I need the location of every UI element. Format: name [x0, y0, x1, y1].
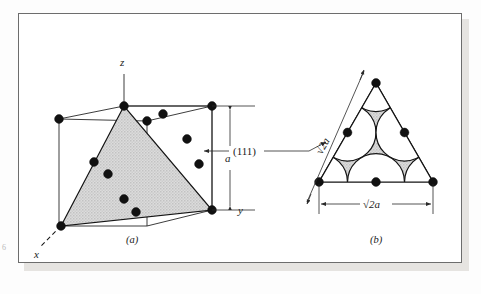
atom-face-center-1	[159, 110, 168, 119]
atom-face-center-2	[183, 135, 192, 144]
atom-circle-group	[291, 55, 462, 211]
caption-a: (a)	[126, 234, 139, 246]
dim-label-cube-edge: a	[225, 152, 231, 164]
dim-side-arrow-top	[360, 70, 364, 80]
atom-face-center-5	[132, 208, 141, 217]
cube-left-vertical	[59, 119, 61, 226]
plane-111-annotation: (111)	[204, 142, 326, 158]
figure-page: 6	[0, 0, 481, 294]
atom-corner-top	[120, 102, 129, 111]
dim-side-arrow-bottom	[307, 194, 311, 204]
dim-side-label-group: √2a	[313, 135, 332, 156]
figure-svg: z y x a (111)	[19, 14, 463, 264]
atom-b-mid-left	[343, 128, 352, 137]
atom-face-center-3	[195, 160, 204, 169]
atom-corner-back-left	[55, 115, 64, 124]
dim-label-triangle-side: √2a	[313, 135, 332, 156]
page-number: 6	[2, 243, 6, 252]
caption-b: (b)	[370, 234, 383, 246]
atom-face-center-4	[90, 158, 99, 167]
atom-corner-inner-bottom	[120, 195, 129, 204]
panel-a-fcc-cube: z y x a	[33, 56, 255, 260]
annotation-label-111: (111)	[233, 145, 256, 158]
panel-b-111-section: √2a √2a	[291, 55, 462, 215]
atom-corner-origin-x	[57, 222, 66, 231]
atom-b-mid-bottom	[372, 178, 381, 187]
atom-b-apex	[372, 79, 381, 88]
figure-frame: z y x a (111)	[18, 13, 462, 263]
atom-b-mid-right	[400, 128, 409, 137]
dim-label-triangle-base: √2a	[363, 198, 381, 210]
axis-label-z: z	[119, 56, 125, 68]
axis-label-x: x	[33, 248, 39, 260]
atom-face-center-6	[104, 170, 113, 179]
atom-corner-inner-top	[143, 117, 152, 126]
